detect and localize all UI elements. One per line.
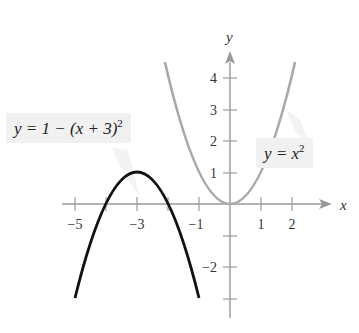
y-tick-label: −2	[202, 260, 217, 275]
equation-label-right: y = x2	[256, 138, 313, 168]
equation-left-exponent: 2	[117, 117, 123, 129]
x-tick-label: −1	[189, 217, 204, 232]
x-tick-label: 1	[258, 217, 265, 232]
x-axis: −5 −3 −1 1 2 x	[62, 197, 347, 232]
equation-right-text: y = x	[264, 144, 299, 163]
x-tick-label: −3	[130, 217, 145, 232]
equation-right-exponent: 2	[299, 142, 305, 154]
x-tick-label: 2	[289, 217, 296, 232]
y-tick-label: 4	[210, 71, 217, 86]
y-tick-label: 3	[210, 103, 217, 118]
equation-label-left: y = 1 − (x + 3)2	[6, 113, 131, 143]
x-axis-label: x	[339, 197, 347, 213]
equation-left-text: y = 1 − (x + 3)	[14, 119, 117, 138]
y-tick-label: 2	[210, 134, 217, 149]
x-tick-label: −5	[68, 217, 83, 232]
y-axis-label: y	[224, 29, 233, 45]
y-axis: 4 3 2 1 −2 y	[202, 29, 237, 318]
y-tick-label: 1	[210, 166, 217, 181]
